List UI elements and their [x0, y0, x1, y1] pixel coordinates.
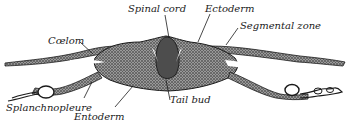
label-segmental-zone: Segmental zone: [240, 21, 321, 31]
spinal-cord-shape: [156, 37, 179, 79]
diagram: Spinal cord Ectoderm Segmental zone Cœlo…: [0, 0, 350, 128]
left-loop: [38, 86, 54, 98]
label-spinal-cord: Spinal cord: [128, 4, 186, 14]
right-loop: [285, 85, 299, 96]
label-coelom: Cœlom: [48, 36, 84, 46]
label-ectoderm: Ectoderm: [205, 4, 255, 14]
label-tail-bud: Tail bud: [170, 95, 211, 105]
label-entoderm: Entoderm: [74, 112, 124, 122]
